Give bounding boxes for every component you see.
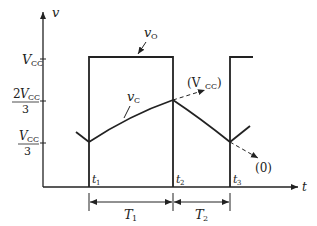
tick-label-vcc-3: V CC 3 (18, 129, 39, 158)
svg-text:(0): (0) (255, 161, 272, 175)
svg-text:1: 1 (132, 214, 137, 223)
svg-text:1: 1 (96, 179, 100, 187)
time-mark-t1: t 1 (92, 173, 100, 187)
svg-text:CC: CC (205, 82, 217, 91)
output-waveform-vo (89, 57, 253, 187)
x-axis-label: t (302, 180, 307, 194)
y-axis-label: v (52, 5, 60, 20)
svg-text:O: O (151, 32, 158, 41)
dimension-lines (89, 193, 230, 211)
svg-text:CC: CC (28, 93, 40, 102)
asymptote-zero: (0) (230, 142, 272, 175)
svg-text:3: 3 (237, 179, 241, 187)
interval-label-t2: T 2 (195, 207, 208, 223)
svg-text:CC: CC (27, 135, 39, 144)
tick-label-vcc: V CC (22, 52, 43, 68)
svg-text:(V: (V (187, 76, 201, 90)
timing-diagram: v t V CC 2 V CC 3 V CC 3 v O (0, 0, 317, 226)
asymptote-vcc: (V CC ) (173, 76, 222, 100)
time-mark-t2: t 2 (176, 173, 184, 187)
svg-text:2: 2 (203, 214, 208, 223)
capacitor-waveform-vc (76, 100, 250, 142)
label-vo: v O (138, 25, 158, 54)
svg-text:2: 2 (180, 179, 184, 187)
time-mark-t3: t 3 (233, 173, 241, 187)
interval-label-t1: T 1 (124, 207, 137, 223)
svg-text:CC: CC (31, 59, 43, 68)
svg-text:3: 3 (22, 103, 29, 116)
svg-text:3: 3 (24, 145, 31, 158)
tick-label-2vcc-3: 2 V CC 3 (12, 87, 40, 116)
svg-text:C: C (134, 96, 140, 105)
svg-text:): ) (217, 76, 222, 90)
